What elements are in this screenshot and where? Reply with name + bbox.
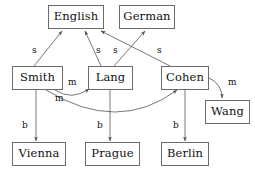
edge-label-lang-english: s <box>96 46 101 55</box>
node-label: Lang <box>96 72 126 84</box>
node-label: German <box>123 11 170 23</box>
node-wang[interactable]: Wang <box>205 100 250 124</box>
node-prague[interactable]: Prague <box>85 142 140 166</box>
node-berlin[interactable]: Berlin <box>161 142 209 166</box>
node-label: Cohen <box>166 72 204 84</box>
edge-label-lang-prague: b <box>97 121 103 130</box>
node-label: Smith <box>20 72 55 84</box>
edge-smith-cohen <box>46 90 177 112</box>
diagram-canvas: EnglishGermanSmithLangCohenWangViennaPra… <box>0 0 255 170</box>
edge-label-cohen-wang: m <box>228 78 237 87</box>
edge-label-smith-cohen: m <box>55 94 64 103</box>
node-english[interactable]: English <box>48 5 104 29</box>
edge-label-cohen-english: s <box>157 46 162 55</box>
edge-label-smith-lang: m <box>68 78 77 87</box>
node-label: English <box>54 11 99 23</box>
edge-smith-english <box>34 31 62 66</box>
edge-label-smith-english: s <box>32 46 37 55</box>
edge-label-lang-german: s <box>113 46 118 55</box>
node-label: Vienna <box>19 148 60 160</box>
edge-lang-german <box>114 31 145 66</box>
edge-label-cohen-berlin: b <box>173 121 179 130</box>
edge-label-smith-vienna: b <box>22 121 28 130</box>
node-label: Berlin <box>167 148 203 160</box>
node-lang[interactable]: Lang <box>88 66 133 90</box>
node-label: Prague <box>91 148 133 160</box>
node-cohen[interactable]: Cohen <box>161 66 209 90</box>
node-vienna[interactable]: Vienna <box>12 142 66 166</box>
node-label: Wang <box>211 106 244 118</box>
node-smith[interactable]: Smith <box>12 66 63 90</box>
node-german[interactable]: German <box>119 5 175 29</box>
edge-cohen-wang <box>209 78 222 98</box>
